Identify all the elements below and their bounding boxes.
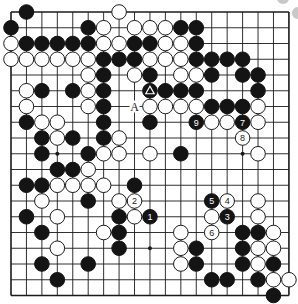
black-stone <box>35 36 50 51</box>
black-stone <box>127 178 142 193</box>
white-stone <box>143 99 158 114</box>
black-stone <box>50 36 65 51</box>
white-stone <box>266 241 281 256</box>
black-stone <box>189 52 204 67</box>
black-stone <box>96 83 111 98</box>
white-stone <box>50 52 65 67</box>
black-stone <box>4 20 19 35</box>
white-stone: 6 <box>204 225 219 240</box>
black-stone <box>65 36 80 51</box>
black-stone <box>189 83 204 98</box>
black-stone: 9 <box>189 115 204 130</box>
white-stone <box>81 68 96 83</box>
black-stone <box>19 115 34 130</box>
white-stone <box>96 146 111 161</box>
star-point <box>148 246 152 250</box>
white-stone <box>19 52 34 67</box>
white-stone <box>81 99 96 114</box>
white-stone <box>143 20 158 35</box>
white-stone <box>112 5 127 20</box>
white-stone <box>65 52 80 67</box>
move-number-label: 3 <box>225 212 230 222</box>
black-stone <box>81 36 96 51</box>
white-stone <box>174 225 189 240</box>
white-stone <box>189 68 204 83</box>
white-stone <box>50 209 65 224</box>
white-stone <box>251 257 266 272</box>
star-point <box>241 152 245 156</box>
black-stone <box>96 68 111 83</box>
white-stone <box>19 83 34 98</box>
white-stone <box>4 52 19 67</box>
white-stone <box>50 178 65 193</box>
white-stone <box>96 225 111 240</box>
star-point <box>55 152 59 156</box>
white-stone <box>282 272 297 287</box>
black-stone <box>204 52 219 67</box>
move-number-label: 8 <box>240 133 245 143</box>
white-stone <box>50 115 65 130</box>
white-stone <box>112 36 127 51</box>
white-stone <box>127 68 142 83</box>
white-stone <box>35 52 50 67</box>
black-stone <box>50 272 65 287</box>
black-stone <box>35 257 50 272</box>
black-stone <box>174 83 189 98</box>
black-stone <box>81 194 96 209</box>
white-stone: 2 <box>127 194 142 209</box>
white-stone <box>158 99 173 114</box>
black-stone <box>81 146 96 161</box>
black-stone <box>235 241 250 256</box>
white-stone <box>143 52 158 67</box>
black-stone: 3 <box>220 209 235 224</box>
black-stone <box>96 131 111 146</box>
black-stone <box>235 225 250 240</box>
white-stone <box>127 20 142 35</box>
black-stone <box>251 68 266 83</box>
white-stone <box>81 162 96 177</box>
black-stone <box>81 257 96 272</box>
black-stone <box>127 36 142 51</box>
white-stone <box>266 225 281 240</box>
white-stone <box>112 131 127 146</box>
black-stone <box>50 162 65 177</box>
black-stone <box>65 162 80 177</box>
black-stone <box>220 99 235 114</box>
black-stone <box>35 131 50 146</box>
black-stone <box>235 52 250 67</box>
white-stone <box>81 83 96 98</box>
black-stone <box>251 272 266 287</box>
white-stone: 4 <box>220 194 235 209</box>
move-number-label: 6 <box>209 228 214 238</box>
point-label-a: A <box>130 100 139 114</box>
black-stone <box>19 178 34 193</box>
white-stone <box>19 99 34 114</box>
white-stone <box>112 194 127 209</box>
white-stone <box>158 36 173 51</box>
white-stone <box>174 36 189 51</box>
black-stone <box>235 257 250 272</box>
black-stone <box>158 83 173 98</box>
black-stone <box>65 131 80 146</box>
white-stone <box>251 194 266 209</box>
black-stone <box>266 288 281 303</box>
black-stone <box>143 83 158 98</box>
black-stone <box>143 115 158 130</box>
white-stone <box>35 194 50 209</box>
black-stone <box>35 146 50 161</box>
black-stone <box>35 83 50 98</box>
white-stone <box>251 146 266 161</box>
white-stone <box>81 178 96 193</box>
black-stone: 7 <box>235 115 250 130</box>
point-labels: A <box>130 100 140 114</box>
black-stone <box>96 99 111 114</box>
black-stone <box>143 36 158 51</box>
white-stone <box>143 146 158 161</box>
white-stone <box>158 52 173 67</box>
white-stone <box>4 36 19 51</box>
black-stone <box>112 241 127 256</box>
white-stone <box>251 99 266 114</box>
black-stone <box>19 5 34 20</box>
white-stone <box>189 99 204 114</box>
black-stone <box>189 241 204 256</box>
